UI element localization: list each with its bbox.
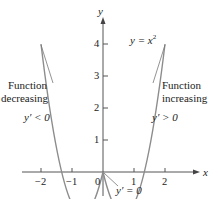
equation-text: y = x xyxy=(130,34,153,46)
increasing-title-line1: Function xyxy=(162,79,201,91)
decreasing-title-line1: Function xyxy=(8,79,47,91)
equation-exponent: 2 xyxy=(153,33,157,41)
vertex-derivative-label: y′ = 0 xyxy=(116,184,142,196)
y-tick-label: 3 xyxy=(94,70,99,82)
increasing-title-line2: increasing xyxy=(162,92,207,104)
equation-label: y = x2 xyxy=(130,31,156,46)
y-tick-label: 4 xyxy=(94,38,99,50)
increasing-derivative-label: y′ > 0 xyxy=(152,111,178,123)
y-tick-label: 1 xyxy=(94,134,99,146)
y-ticks xyxy=(103,44,108,140)
y-tick-label: 2 xyxy=(94,102,99,114)
x-tick-label: −2 xyxy=(35,176,46,188)
x-tick-label: 2 xyxy=(162,176,167,188)
y-axis-arrow-icon xyxy=(101,17,106,24)
y-axis-label: y xyxy=(98,5,103,17)
x-axis-label: x xyxy=(203,166,208,178)
decreasing-derivative-label: y′ < 0 xyxy=(24,111,50,123)
x-axis-arrow-icon xyxy=(193,170,200,175)
decreasing-title-line2: decreasing xyxy=(1,92,48,104)
x-tick-label: −1 xyxy=(66,176,77,188)
x-tick-label: 0 xyxy=(95,176,100,188)
